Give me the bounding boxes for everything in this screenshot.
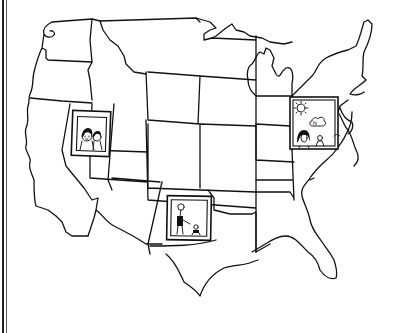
us-map-sketch: hi xyxy=(0,0,394,333)
gulf-florida-outline xyxy=(252,150,337,279)
map-drawing: hi Hand-drawn black line sketch o xyxy=(0,0,394,333)
state-lines-north-central xyxy=(146,18,256,160)
frame-south xyxy=(167,196,212,241)
great-lakes-outline xyxy=(212,24,293,98)
frame-west xyxy=(71,110,111,156)
speech-cloud-text: hi xyxy=(313,120,317,126)
frame-east: hi xyxy=(290,97,340,149)
